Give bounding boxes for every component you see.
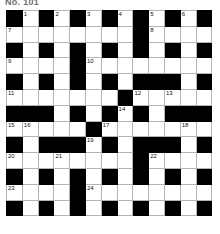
crossword-cell[interactable]: [70, 153, 86, 169]
crossword-cell[interactable]: [149, 58, 165, 74]
crossword-cell[interactable]: [133, 58, 149, 74]
crossword-cell[interactable]: [117, 26, 133, 42]
crossword-cell[interactable]: [85, 42, 101, 58]
crossword-cell[interactable]: [117, 74, 133, 90]
crossword-cell[interactable]: [85, 105, 101, 121]
crossword-cell[interactable]: 6: [180, 11, 196, 27]
crossword-cell[interactable]: 14: [117, 105, 133, 121]
crossword-cell[interactable]: 3: [85, 11, 101, 27]
crossword-cell[interactable]: [149, 105, 165, 121]
crossword-cell[interactable]: [85, 26, 101, 42]
crossword-cell[interactable]: 11: [7, 89, 23, 105]
crossword-cell[interactable]: [149, 168, 165, 184]
crossword-cell[interactable]: 15: [7, 121, 23, 137]
crossword-cell[interactable]: [85, 89, 101, 105]
crossword-cell[interactable]: 24: [85, 184, 101, 200]
crossword-cell[interactable]: [133, 184, 149, 200]
crossword-cell[interactable]: [101, 184, 117, 200]
crossword-cell[interactable]: [117, 137, 133, 153]
crossword-cell[interactable]: 12: [133, 89, 149, 105]
crossword-cell[interactable]: [180, 26, 196, 42]
crossword-cell[interactable]: [22, 168, 38, 184]
crossword-cell[interactable]: [180, 137, 196, 153]
crossword-cell[interactable]: 23: [7, 184, 23, 200]
crossword-cell[interactable]: [85, 168, 101, 184]
crossword-cell[interactable]: [180, 200, 196, 216]
crossword-cell[interactable]: [70, 26, 86, 42]
crossword-cell[interactable]: [196, 89, 212, 105]
crossword-grid[interactable]: 123456789101112131415161718192021222324: [6, 10, 212, 216]
crossword-cell[interactable]: [180, 74, 196, 90]
crossword-cell[interactable]: [54, 42, 70, 58]
crossword-cell[interactable]: [117, 153, 133, 169]
crossword-cell[interactable]: [196, 153, 212, 169]
crossword-cell[interactable]: 13: [164, 89, 180, 105]
crossword-cell[interactable]: [117, 200, 133, 216]
crossword-cell[interactable]: [101, 26, 117, 42]
crossword-cell[interactable]: [22, 42, 38, 58]
crossword-cell[interactable]: [70, 89, 86, 105]
crossword-cell[interactable]: [164, 184, 180, 200]
crossword-cell[interactable]: [180, 89, 196, 105]
crossword-cell[interactable]: [117, 42, 133, 58]
crossword-cell[interactable]: 16: [22, 121, 38, 137]
crossword-cell[interactable]: [22, 26, 38, 42]
crossword-cell[interactable]: 7: [7, 26, 23, 42]
crossword-cell[interactable]: [117, 184, 133, 200]
crossword-cell[interactable]: [196, 184, 212, 200]
crossword-cell[interactable]: [54, 184, 70, 200]
crossword-cell[interactable]: [180, 153, 196, 169]
crossword-cell[interactable]: [196, 58, 212, 74]
crossword-cell[interactable]: [54, 74, 70, 90]
crossword-cell[interactable]: [101, 153, 117, 169]
crossword-cell[interactable]: 17: [101, 121, 117, 137]
crossword-cell[interactable]: 19: [85, 137, 101, 153]
crossword-cell[interactable]: 9: [7, 58, 23, 74]
crossword-cell[interactable]: [149, 200, 165, 216]
crossword-cell[interactable]: [149, 89, 165, 105]
crossword-cell[interactable]: 2: [54, 11, 70, 27]
crossword-cell[interactable]: [54, 89, 70, 105]
crossword-cell[interactable]: [38, 26, 54, 42]
crossword-cell[interactable]: [164, 58, 180, 74]
crossword-cell[interactable]: [38, 184, 54, 200]
crossword-cell[interactable]: [54, 200, 70, 216]
crossword-cell[interactable]: 18: [180, 121, 196, 137]
crossword-cell[interactable]: [164, 153, 180, 169]
crossword-cell[interactable]: [22, 58, 38, 74]
crossword-cell[interactable]: [54, 168, 70, 184]
crossword-cell[interactable]: [85, 74, 101, 90]
crossword-cell[interactable]: [38, 121, 54, 137]
crossword-cell[interactable]: 1: [22, 11, 38, 27]
crossword-cell[interactable]: [196, 121, 212, 137]
crossword-cell[interactable]: [164, 26, 180, 42]
crossword-cell[interactable]: [117, 58, 133, 74]
crossword-cell[interactable]: [149, 42, 165, 58]
crossword-cell[interactable]: [85, 153, 101, 169]
crossword-cell[interactable]: 4: [117, 11, 133, 27]
crossword-cell[interactable]: 8: [149, 26, 165, 42]
crossword-cell[interactable]: 22: [149, 153, 165, 169]
crossword-cell[interactable]: [180, 184, 196, 200]
crossword-cell[interactable]: [180, 42, 196, 58]
crossword-cell[interactable]: [22, 184, 38, 200]
crossword-cell[interactable]: 21: [54, 153, 70, 169]
crossword-cell[interactable]: [22, 200, 38, 216]
crossword-cell[interactable]: [54, 58, 70, 74]
crossword-cell[interactable]: [22, 153, 38, 169]
crossword-cell[interactable]: [180, 168, 196, 184]
crossword-cell[interactable]: [22, 89, 38, 105]
crossword-cell[interactable]: 20: [7, 153, 23, 169]
crossword-cell[interactable]: [117, 168, 133, 184]
crossword-cell[interactable]: [54, 26, 70, 42]
crossword-cell[interactable]: [54, 105, 70, 121]
crossword-cell[interactable]: [149, 121, 165, 137]
crossword-cell[interactable]: [85, 200, 101, 216]
crossword-cell[interactable]: [101, 89, 117, 105]
crossword-cell[interactable]: [196, 26, 212, 42]
crossword-cell[interactable]: [101, 58, 117, 74]
crossword-cell[interactable]: [70, 121, 86, 137]
crossword-cell[interactable]: [22, 74, 38, 90]
crossword-cell[interactable]: [38, 153, 54, 169]
crossword-cell[interactable]: [54, 121, 70, 137]
